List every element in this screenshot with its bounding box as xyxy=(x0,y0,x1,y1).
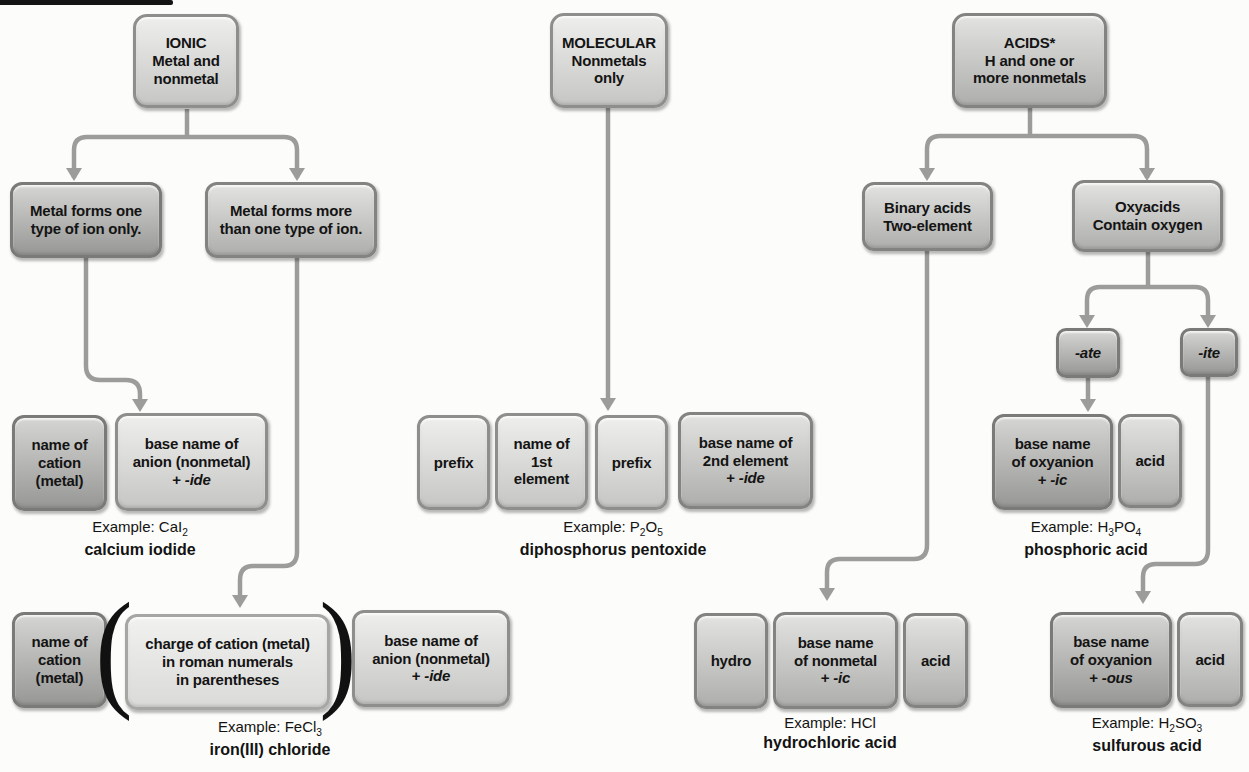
formula-subscript: 3 xyxy=(1197,723,1203,734)
connector-oxy-split xyxy=(1087,287,1208,322)
box-line: (metal) xyxy=(36,669,84,687)
nomenclature-flowchart: IONIC Metal and nonmetal Metal forms one… xyxy=(0,0,1249,772)
box-line: Contain oxygen xyxy=(1093,216,1203,234)
box-line: Binary acids xyxy=(884,199,971,217)
plus-sign: + xyxy=(1089,669,1098,687)
example-name: iron(III) chloride xyxy=(170,740,370,759)
arrowhead xyxy=(66,168,82,181)
example-formula: Example: CaI2 xyxy=(40,518,240,540)
box-line: anion (nonmetal) xyxy=(133,453,251,471)
connector-one-type xyxy=(86,258,140,401)
arrowhead xyxy=(289,168,305,181)
connector-ionic-split xyxy=(74,137,297,178)
arrowhead xyxy=(1080,399,1096,412)
box-line: base name of xyxy=(145,435,238,453)
plus-sign: + xyxy=(726,469,735,487)
plus-sign: + xyxy=(1038,471,1047,489)
ite-box: -ite xyxy=(1180,328,1238,377)
example-phosphoric-acid: Example: H3PO4 phosphoric acid xyxy=(986,518,1186,559)
acid-box-1: acid xyxy=(1118,414,1182,508)
box-line: cation xyxy=(38,651,81,669)
metal-one-type-box: Metal forms one type of ion only. xyxy=(10,182,162,258)
plus-sign: + xyxy=(412,667,421,685)
name-of-cation-box-1: name of cation (metal) xyxy=(12,415,107,511)
arrowhead xyxy=(1135,591,1151,604)
box-line: name of xyxy=(513,435,569,453)
acid-box-3: acid xyxy=(1177,612,1243,707)
box-line: H and one or xyxy=(985,52,1074,70)
formula-text: Example: H xyxy=(1092,714,1170,731)
box-line: base name xyxy=(1073,633,1149,651)
box-line: +-ide xyxy=(412,667,450,685)
formula-text: O xyxy=(646,518,658,535)
binary-acids-box: Binary acids Two-element xyxy=(862,182,993,251)
box-line: Metal forms one xyxy=(30,202,142,220)
formula-text: PO xyxy=(1114,518,1136,535)
box-line: base name xyxy=(1015,435,1091,453)
box-line: +-ide xyxy=(726,469,764,487)
example-formula: Example: HCl xyxy=(730,714,930,733)
box-line: Two-element xyxy=(883,217,971,235)
arrowhead xyxy=(232,595,248,608)
example-name: sulfurous acid xyxy=(1047,736,1247,755)
formula-subscript: 2 xyxy=(182,527,188,538)
box-line: base name xyxy=(798,634,874,652)
arrowhead xyxy=(819,588,835,601)
box-line: anion (nonmetal) xyxy=(372,650,490,668)
box-line: +-ic xyxy=(821,669,850,687)
example-name: hydrochloric acid xyxy=(730,733,930,752)
box-line: name of xyxy=(31,633,87,651)
formula-subscript: 5 xyxy=(657,527,663,538)
base-name-oxyanion-ous-box: base name of oxyanion +-ous xyxy=(1050,612,1172,708)
base-name-oxyanion-ic-box: base name of oxyanion +-ic xyxy=(992,414,1113,510)
formula-text: Example: HCl xyxy=(784,714,876,731)
example-calcium-iodide: Example: CaI2 calcium iodide xyxy=(40,518,240,559)
box-line: element xyxy=(514,470,569,488)
box-line: nonmetal xyxy=(153,70,218,88)
formula-text: Example: H xyxy=(1031,518,1109,535)
formula-text: Example: CaI xyxy=(92,518,182,535)
suffix-ide: -ide xyxy=(424,667,450,685)
box-line: Oxyacids xyxy=(1115,198,1180,216)
box-line: (metal) xyxy=(36,472,84,490)
box-line: prefix xyxy=(612,454,652,472)
molecular-root-box: MOLECULAR Nonmetals only xyxy=(550,13,668,108)
example-sulfurous-acid: Example: H2SO3 sulfurous acid xyxy=(1047,714,1247,755)
box-line: Metal and xyxy=(152,52,219,70)
suffix-ide: -ide xyxy=(185,471,211,489)
formula-text: Example: FeCl xyxy=(218,718,316,735)
example-hydrochloric-acid: Example: HCl hydrochloric acid xyxy=(730,714,930,752)
arrowhead xyxy=(919,168,935,181)
formula-subscript: 4 xyxy=(1136,527,1142,538)
box-line: +-ous xyxy=(1089,669,1132,687)
example-formula: Example: H3PO4 xyxy=(986,518,1186,540)
example-diphosphorus-pentoxide: Example: P2O5 diphosphorus pentoxide xyxy=(493,518,733,559)
example-name: diphosphorus pentoxide xyxy=(493,540,733,559)
ionic-root-box: IONIC Metal and nonmetal xyxy=(133,14,239,108)
box-line: Metal forms more xyxy=(230,202,352,220)
connector-acids-split xyxy=(927,136,1147,178)
hydro-box: hydro xyxy=(694,613,768,709)
suffix-ic: -ic xyxy=(833,669,850,687)
box-line: acid xyxy=(1195,651,1224,669)
box-line: 1st xyxy=(531,453,552,471)
box-line: type of ion only. xyxy=(31,220,141,238)
suffix-ite: -ite xyxy=(1198,344,1220,362)
example-iron-chloride: Example: FeCl3 iron(III) chloride xyxy=(170,718,370,759)
prefix-box-2: prefix xyxy=(595,415,668,510)
connector-binary xyxy=(827,251,927,590)
box-line: +-ic xyxy=(1038,471,1067,489)
base-name-anion-box-1: base name of anion (nonmetal) +-ide xyxy=(115,413,268,511)
suffix-ic: -ic xyxy=(1050,471,1067,489)
box-line: of oxyanion xyxy=(1012,453,1094,471)
box-line: +-ide xyxy=(172,471,210,489)
suffix-ous: -ous xyxy=(1102,669,1133,687)
arrowhead xyxy=(600,398,616,411)
example-name: phosphoric acid xyxy=(986,540,1186,559)
oxyacids-box: Oxyacids Contain oxygen xyxy=(1072,180,1223,252)
ate-box: -ate xyxy=(1056,328,1120,378)
box-line: than one type of ion. xyxy=(220,220,362,238)
name-1st-element-box: name of 1st element xyxy=(495,413,588,510)
box-line: only xyxy=(594,69,624,87)
base-name-nonmetal-ic-box: base name of nonmetal +-ic xyxy=(773,612,898,709)
